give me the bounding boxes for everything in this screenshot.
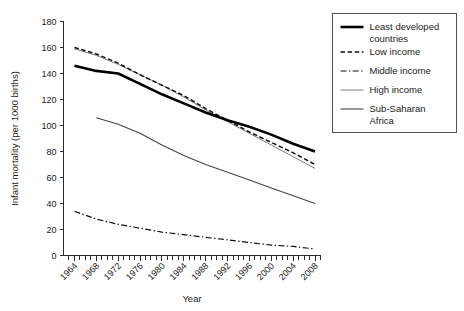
series-line-sub-saharan-africa [96, 118, 315, 204]
chart-legend: Least developedcountriesLow incomeMiddle… [333, 14, 457, 133]
x-tick-label: 2004 [277, 261, 298, 282]
x-tick-label: 1980 [146, 261, 167, 282]
x-axis: 1964196819721976198019841988199219962000… [58, 256, 320, 283]
x-tick-label: 2000 [255, 261, 276, 282]
series-line-middle-income [74, 211, 315, 249]
x-axis-title: Year [182, 293, 201, 304]
y-tick-label: 80 [46, 147, 56, 157]
y-tick-label: 40 [46, 199, 56, 209]
legend-label: countries [370, 33, 409, 44]
x-tick-label: 1988 [189, 261, 210, 282]
line-chart-svg: 020406080100120140160180 196419681972197… [0, 0, 464, 311]
series-line-low-income [74, 48, 315, 165]
x-tick-label: 1992 [211, 261, 232, 282]
y-tick-label: 100 [41, 121, 56, 131]
y-tick-label: 60 [46, 173, 56, 183]
series-lines [74, 48, 315, 250]
y-tick-label: 140 [41, 69, 56, 79]
legend-label: Least developed [370, 21, 440, 32]
x-tick-label: 1972 [102, 261, 123, 282]
chart-figure: 020406080100120140160180 196419681972197… [0, 0, 464, 311]
x-tick-label: 1976 [124, 261, 145, 282]
y-tick-label: 160 [41, 43, 56, 53]
y-axis: 020406080100120140160180 [41, 17, 63, 261]
x-tick-label: 1968 [80, 261, 101, 282]
legend-label: Middle income [370, 65, 431, 76]
y-axis-title: Infant mortality (per 1000 births) [9, 71, 20, 206]
y-tick-label: 180 [41, 17, 56, 27]
x-tick-label: 1964 [58, 261, 79, 282]
series-line-least-developed-countries [74, 66, 315, 152]
y-tick-label: 120 [41, 95, 56, 105]
y-tick-label: 20 [46, 225, 56, 235]
legend-label: Low income [370, 46, 421, 57]
legend-label: High income [370, 84, 423, 95]
x-tick-label: 1996 [233, 261, 254, 282]
x-tick-label: 2008 [299, 261, 320, 282]
x-tick-label: 1984 [167, 261, 188, 282]
legend-label: Sub-Saharan [370, 103, 426, 114]
legend-label: Africa [370, 115, 395, 126]
y-tick-label: 0 [51, 251, 56, 261]
